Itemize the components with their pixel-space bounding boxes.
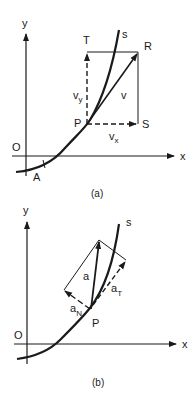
vy-label: vy xyxy=(73,89,83,104)
vx-label: vx xyxy=(109,130,119,145)
caption-a: (a) xyxy=(91,188,103,199)
origin-label-a: O xyxy=(12,141,21,153)
v-label: v xyxy=(121,89,127,101)
curve-label-b: s xyxy=(126,216,132,228)
x-axis-label-b: x xyxy=(182,338,188,350)
point-p-label-a: P xyxy=(74,117,81,129)
a-label: a xyxy=(83,270,90,282)
point-a-label: A xyxy=(33,171,41,183)
origin-label-b: O xyxy=(14,329,23,341)
y-axis-label-a: y xyxy=(22,17,28,29)
an-label: aN xyxy=(70,302,82,318)
caption-b: (b) xyxy=(92,377,104,388)
x-axis-label-a: x xyxy=(180,150,186,162)
y-axis-label-b: y xyxy=(23,204,29,216)
point-r-label: R xyxy=(144,40,152,52)
point-t-label: T xyxy=(83,34,90,46)
kinematics-diagram: y x O s A T R P S v vy vx (a) y x O s xyxy=(0,0,196,407)
figure-b: y x O s a aT aN P (b) xyxy=(14,204,188,388)
at-label: aT xyxy=(111,282,122,298)
point-p-label-b: P xyxy=(92,317,99,329)
an-vector xyxy=(65,291,90,309)
figure-a: y x O s A T R P S v vy vx (a) xyxy=(12,17,186,199)
curve-label-a: s xyxy=(122,28,128,40)
point-s-label: S xyxy=(142,118,149,130)
